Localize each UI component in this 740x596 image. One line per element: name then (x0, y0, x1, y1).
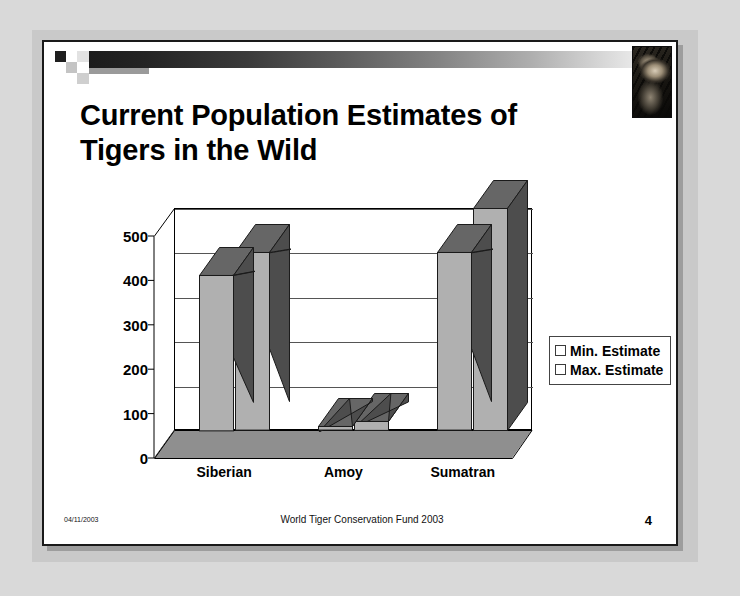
legend-label-max: Max. Estimate (570, 362, 663, 378)
y-axis-tick-label: 0 (106, 450, 148, 467)
legend-swatch-min (555, 345, 566, 356)
y-axis-tick-label: 300 (106, 316, 148, 333)
chart-legend: Min. Estimate Max. Estimate (549, 336, 671, 385)
decor-square-gray-3 (77, 73, 89, 84)
x-axis-category-label: Amoy (284, 464, 403, 480)
chart-bar (437, 252, 471, 430)
legend-label-min: Min. Estimate (570, 343, 660, 359)
y-axis-tick-label: 200 (106, 361, 148, 378)
slide-header-decoration (44, 42, 680, 88)
legend-item-max: Max. Estimate (555, 360, 663, 379)
y-axis-tick-label: 500 (106, 228, 148, 245)
decor-square-dark (55, 51, 66, 62)
chart-bar-3d (199, 247, 255, 432)
x-axis-category-label: Sumatran (403, 464, 522, 480)
y-axis-tick-label: 400 (106, 272, 148, 289)
screenshot-canvas: Current Population Estimates of Tigers i… (0, 0, 740, 596)
decor-square-gray-2 (77, 51, 89, 62)
chart-bar (318, 426, 352, 430)
chart-plot-area: SiberianAmoySumatran (154, 208, 532, 458)
population-bar-chart: 0100200300400500 SiberianAmoySumatran (102, 208, 662, 483)
page-title-line-2: Tigers in the Wild (80, 133, 640, 168)
header-gradient-bar (89, 51, 655, 68)
x-axis-category-label: Siberian (164, 464, 283, 480)
y-axis-tick-label: 100 (106, 405, 148, 422)
header-gradient-bar-accent (89, 68, 149, 74)
slide-footer: 04/11/2003 World Tiger Conservation Fund… (44, 514, 680, 530)
legend-item-min: Min. Estimate (555, 341, 663, 360)
footer-organization: World Tiger Conservation Fund 2003 (44, 514, 680, 525)
chart-bar-3d (318, 398, 374, 432)
chart-bar-3d (437, 224, 493, 432)
chart-bar (199, 275, 233, 430)
chart-y-axis: 0100200300400500 (102, 208, 148, 483)
page-title: Current Population Estimates of Tigers i… (80, 98, 640, 169)
decor-square-gray-1 (66, 62, 77, 73)
presentation-slide: Current Population Estimates of Tigers i… (42, 40, 678, 546)
legend-swatch-max (555, 364, 566, 375)
chart-floor-edges (154, 430, 532, 459)
footer-page-number: 4 (645, 513, 652, 528)
page-title-line-1: Current Population Estimates of (80, 98, 640, 133)
